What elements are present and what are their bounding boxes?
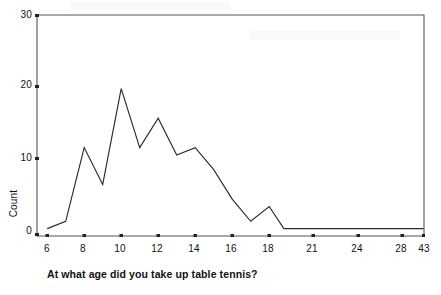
x-axis-caption: At what age did you take up table tennis… [47,268,258,280]
plot-area [0,0,441,295]
chart-figure: 30 20 10 0 Count 6 8 10 12 14 16 18 21 2… [0,0,441,295]
plot-frame [37,15,424,236]
data-series-line [47,89,423,229]
